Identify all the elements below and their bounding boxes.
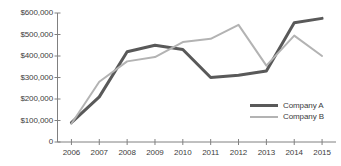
x-tick-label: 2015: [308, 149, 336, 157]
legend-label-company-b: Company B: [283, 113, 324, 121]
chart-legend: Company A Company B: [250, 100, 340, 122]
x-tick-label: 2011: [197, 149, 225, 157]
x-tick-label: 2009: [141, 149, 169, 157]
legend-swatch-icon-company-b: [250, 116, 278, 118]
x-tick-label: 2006: [57, 149, 85, 157]
x-tick-label: 2010: [169, 149, 197, 157]
legend-swatch-icon-company-a: [250, 104, 278, 107]
x-tick-label: 2007: [85, 149, 113, 157]
legend-item-company-a[interactable]: Company A: [250, 100, 340, 111]
x-axis-tick-labels: 2006200720082009201020112012201320142015: [0, 0, 341, 166]
x-tick-label: 2012: [225, 149, 253, 157]
x-tick-label: 2013: [252, 149, 280, 157]
x-tick-label: 2008: [113, 149, 141, 157]
legend-item-company-b[interactable]: Company B: [250, 111, 340, 122]
line-chart: $600,000$500,000$400,000$300,000$200,000…: [0, 0, 341, 166]
x-tick-label: 2014: [280, 149, 308, 157]
legend-label-company-a: Company A: [283, 102, 323, 110]
